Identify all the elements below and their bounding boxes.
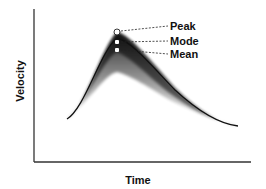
mean-marker: [115, 48, 119, 52]
velocity-time-diagram: Peak Mode Mean Time Velocity: [0, 0, 266, 189]
y-axis-label: Velocity: [14, 59, 26, 101]
mean-label: Mean: [170, 48, 198, 60]
peak-marker: [114, 29, 120, 35]
x-axis-label: Time: [125, 174, 150, 186]
mode-marker: [115, 40, 119, 44]
mode-label: Mode: [170, 35, 199, 47]
peak-label: Peak: [170, 20, 197, 32]
peak-leader: [121, 26, 168, 31]
